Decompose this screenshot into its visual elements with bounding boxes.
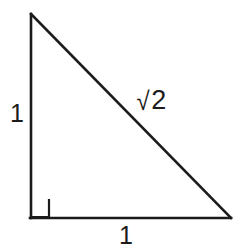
- hypotenuse-radicand: 2: [151, 87, 166, 114]
- radical-sign-icon: √: [137, 88, 150, 114]
- hypotenuse-label: √2: [136, 87, 166, 114]
- triangle-drawing: [0, 0, 249, 250]
- right-triangle-figure: 1 1 √2: [0, 0, 249, 250]
- vertical-leg-label: 1: [10, 101, 24, 126]
- horizontal-leg-label: 1: [119, 223, 133, 248]
- figure-background: [0, 0, 249, 250]
